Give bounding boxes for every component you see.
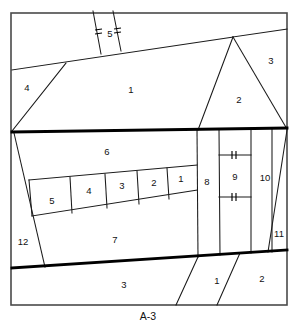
- room-label-12: 12: [18, 236, 29, 247]
- room-label-11: 11: [274, 228, 284, 239]
- floor-plan-page: 54132654321891071211312 A-3: [0, 0, 296, 331]
- room-label-9: 9: [232, 171, 237, 182]
- room-label-5-row: 5: [49, 195, 54, 206]
- room-label-4-row: 4: [86, 185, 91, 196]
- room-label-5-top: 5: [107, 28, 112, 39]
- room-label-7: 7: [112, 234, 117, 245]
- room-label-4: 4: [24, 82, 29, 93]
- room-label-3-row: 3: [119, 180, 124, 191]
- room-label-1-row: 1: [178, 173, 183, 184]
- room-label-2-row: 2: [151, 177, 156, 188]
- room-label-3-upper-right: 3: [268, 55, 273, 66]
- room-label-6: 6: [104, 146, 109, 157]
- room-label-1-bottom: 1: [214, 275, 219, 286]
- room-label-10: 10: [260, 172, 271, 183]
- room-label-8: 8: [204, 176, 209, 187]
- sheet-number-label: A-3: [140, 310, 157, 322]
- floor-plan-drawing: 54132654321891071211312 A-3: [0, 0, 296, 331]
- room-label-2-bottom: 2: [259, 273, 264, 284]
- room-label-3-bottom: 3: [121, 279, 126, 290]
- room-label-1-upper: 1: [128, 84, 133, 95]
- room-label-2-triangle: 2: [236, 94, 241, 105]
